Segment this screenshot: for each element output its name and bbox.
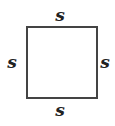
side-label-bottom: s — [55, 102, 65, 119]
side-label-left: s — [7, 54, 17, 71]
side-label-right: s — [100, 54, 110, 71]
square-shape — [26, 26, 98, 99]
side-label-top: s — [55, 7, 65, 24]
